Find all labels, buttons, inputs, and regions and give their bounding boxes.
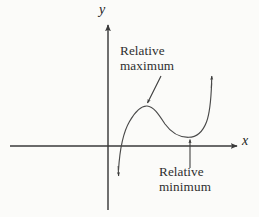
relative-minimum-label-line2: minimum (159, 180, 211, 195)
relative-maximum-label-line1: Relative (120, 44, 174, 59)
x-axis-label: x (242, 133, 248, 149)
y-axis-label: y (99, 2, 105, 18)
relative-maximum-label: Relative maximum (120, 44, 174, 74)
figure-container: y x Relative maximum Relative minimum (0, 0, 259, 217)
curve-path (119, 84, 212, 171)
relative-maximum-label-line2: maximum (120, 59, 174, 74)
diagram-canvas (0, 0, 259, 217)
relative-maximum-leader-arrow (148, 76, 162, 103)
relative-minimum-label: Relative minimum (159, 165, 211, 195)
relative-minimum-label-line1: Relative (159, 165, 211, 180)
